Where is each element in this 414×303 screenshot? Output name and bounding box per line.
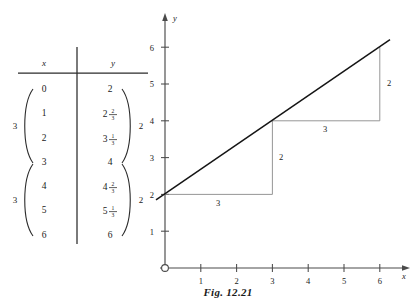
x-tick-group: 1 2 3 4 5 6: [199, 264, 382, 286]
x-brace-upper-label: 3: [13, 121, 18, 131]
x-tick-label-4: 4: [306, 276, 311, 286]
y-brace-upper-label: 2: [139, 121, 144, 131]
x-brace-lower-label: 3: [13, 195, 18, 205]
table-cell-y-4: 4 2 3: [103, 181, 117, 194]
y-tick-label-6: 6: [150, 43, 154, 53]
y-tick-label-3: 3: [150, 153, 154, 163]
table-cell-y-3: 4: [108, 157, 113, 167]
y-brace-lower-label: 2: [139, 195, 144, 205]
x-tick-label-5: 5: [342, 276, 346, 286]
y-brace-lower: [122, 164, 130, 236]
x-tick-label-3: 3: [270, 276, 274, 286]
slope-triangle-1-rise-label: 2: [279, 152, 283, 162]
table-cell-x-6: 6: [42, 230, 47, 240]
mixed-whole: 3: [103, 134, 108, 144]
x-axis-arrowhead: [402, 265, 410, 271]
figure-canvas: x y 0 1 2 3 4 5 6 3 3 2 4 6 2: [0, 0, 414, 303]
y-tick-label-5: 5: [150, 79, 154, 89]
table-header-y: y: [110, 58, 115, 68]
y-tick-label-1: 1: [150, 227, 154, 237]
mixed-denominator: 3: [112, 115, 115, 121]
x-axis-label: x: [401, 271, 406, 281]
mixed-numerator: 1: [112, 133, 115, 139]
mixed-denominator: 3: [112, 188, 115, 194]
mixed-numerator: 2: [112, 108, 115, 114]
x-brace-upper: [25, 89, 33, 163]
x-brace-lower: [25, 164, 33, 236]
y-tick-label-2: 2: [150, 190, 154, 200]
mixed-numerator: 1: [112, 205, 115, 211]
y-brace-upper: [122, 89, 130, 163]
x-tick-label-6: 6: [378, 276, 382, 286]
mixed-denominator: 3: [112, 140, 115, 146]
table-cell-y-2: 3 1 3: [103, 133, 117, 146]
table-cell-y-5: 5 1 3: [103, 205, 117, 218]
slope-triangle-2-run-label: 3: [323, 124, 327, 134]
table-cell-x-4: 4: [42, 181, 47, 191]
table-cell-x-2: 2: [42, 133, 47, 143]
slope-triangle-2-rise-label: 2: [387, 78, 391, 88]
table-cell-x-1: 1: [42, 108, 47, 118]
table-cell-x-5: 5: [42, 205, 47, 215]
y-axis-arrowhead: [162, 13, 168, 21]
table-header-x: x: [41, 58, 46, 68]
y-tick-group: 1 2 3 4 5 6: [150, 43, 169, 237]
y-axis-label: y: [172, 13, 177, 23]
mixed-denominator: 3: [112, 212, 115, 218]
figure-container: x y 0 1 2 3 4 5 6 3 3 2 4 6 2: [0, 0, 414, 303]
figure-caption: Fig. 12.21: [202, 286, 252, 298]
table-cell-y-6: 6: [108, 230, 113, 240]
mixed-whole: 4: [103, 182, 108, 192]
x-tick-label-1: 1: [199, 276, 203, 286]
table-cell-y-0: 2: [108, 84, 113, 94]
origin-marker: [162, 265, 169, 272]
graph-plot: y x 1 2 3 4 5 6: [150, 13, 410, 286]
mixed-whole: 2: [103, 109, 108, 119]
x-tick-label-2: 2: [234, 276, 238, 286]
table-cell-x-0: 0: [42, 84, 47, 94]
y-tick-label-4: 4: [150, 116, 155, 126]
mixed-numerator: 2: [112, 181, 115, 187]
table-cell-y-1: 2 2 3: [103, 108, 117, 121]
table-cell-x-3: 3: [42, 157, 47, 167]
mixed-whole: 5: [103, 206, 108, 216]
slope-triangle-1-run-label: 3: [216, 198, 220, 208]
value-table: x y 0 1 2 3 4 5 6 3 3 2 4 6 2: [13, 47, 148, 244]
data-line-series-1: [156, 40, 390, 200]
